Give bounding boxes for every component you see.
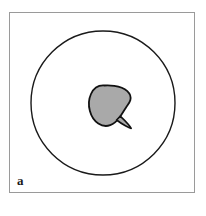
- teardrop-tail: [117, 116, 132, 128]
- figure-graphic: [0, 0, 206, 216]
- figure-panel: a: [0, 0, 206, 216]
- panel-label: a: [17, 174, 24, 188]
